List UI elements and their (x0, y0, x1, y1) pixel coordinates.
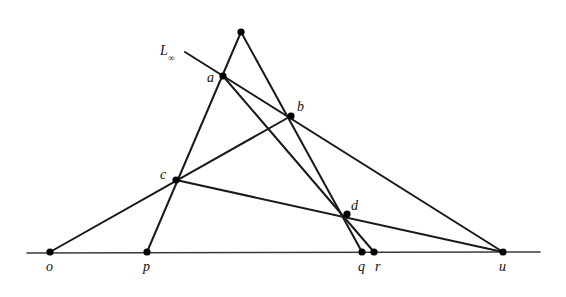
segment-o-c-b (50, 116, 291, 252)
segment-Linf-a-b-u (185, 52, 503, 252)
point-label-d: d (351, 199, 358, 213)
point-dot-r (370, 248, 377, 255)
segment-baseline (27, 252, 540, 253)
point-dot-p (143, 248, 150, 255)
line-label-subscript: ∞ (168, 53, 174, 63)
segment-p-c-a-v (147, 32, 241, 252)
point-dot-c (172, 176, 179, 183)
line-at-infinity-label: L∞ (160, 44, 174, 61)
point-label-q: q (358, 260, 365, 274)
segment-v-b-d-q (241, 32, 362, 252)
point-label-p: p (143, 260, 150, 274)
geometry-figure: opqruabcd L∞ (0, 0, 566, 297)
point-dot-o (46, 248, 53, 255)
point-dot-a (219, 72, 226, 79)
line-label-base: L (160, 43, 168, 58)
point-label-u: u (499, 260, 506, 274)
point-label-a: a (207, 71, 214, 85)
segment-c-d-u (176, 180, 503, 252)
segments-layer (27, 32, 540, 253)
point-label-o: o (46, 260, 53, 274)
point-dot-v (237, 28, 244, 35)
point-label-r: r (375, 260, 380, 274)
point-label-c: c (160, 168, 166, 182)
points-layer (46, 28, 506, 255)
figure-canvas (0, 0, 566, 297)
point-dot-b (287, 112, 294, 119)
point-dot-u (499, 248, 506, 255)
point-label-b: b (297, 100, 304, 114)
point-dot-q (358, 248, 365, 255)
point-dot-d (343, 210, 350, 217)
